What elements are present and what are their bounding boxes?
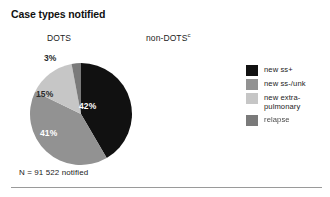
legend-swatch-icon-new-extra-pulmonary — [246, 93, 258, 104]
legend-item-relapse: relapse — [246, 115, 330, 126]
chart-total-caption: N = 91 522 notified — [19, 168, 88, 177]
legend-label-new-extra-pulmonary: new extra- pulmonary — [264, 93, 300, 111]
legend-label-new-ss-plus: new ss+ — [264, 65, 293, 74]
legend-swatch-icon-new-ss-minus-unk — [246, 79, 258, 90]
pie-slice-label-new-ss-minus-unk: 41% — [40, 128, 57, 138]
pie-chart-svg — [29, 62, 133, 166]
legend-item-new-ss-minus-unk: new ss-/unk — [246, 79, 330, 90]
footer-divider — [11, 187, 322, 188]
legend-label-new-ss-minus-unk: new ss-/unk — [264, 79, 306, 88]
column-heading-non-dots-superscript: c — [187, 32, 190, 38]
pie-slice-label-relapse: 3% — [44, 53, 57, 63]
column-heading-dots: DOTS — [47, 33, 71, 43]
legend-item-new-ss-plus: new ss+ — [246, 65, 330, 76]
page-title: Case types notified — [11, 8, 105, 20]
legend-label-relapse: relapse — [264, 115, 290, 124]
figure-panel: Case types notified DOTS non-DOTSc 42% 4… — [0, 0, 330, 197]
legend-item-new-extra-pulmonary: new extra- pulmonary — [246, 93, 330, 111]
legend-swatch-icon-relapse — [246, 115, 258, 126]
column-heading-non-dots-label: non-DOTS — [146, 33, 187, 43]
pie-chart — [29, 62, 133, 166]
column-heading-non-dots: non-DOTSc — [146, 33, 191, 43]
pie-slice-label-new-ss-plus: 42% — [79, 101, 96, 111]
chart-legend: new ss+ new ss-/unk new extra- pulmonary… — [246, 65, 330, 129]
pie-slice-label-new-extra-pulmonary: 15% — [36, 89, 53, 99]
legend-swatch-icon-new-ss-plus — [246, 65, 258, 76]
